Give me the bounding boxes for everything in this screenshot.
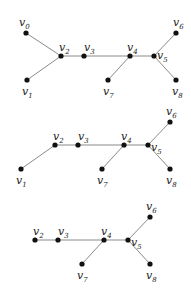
node-v2 (32, 237, 37, 242)
node-label-v8: v8 (146, 269, 157, 284)
node-label-v8: v8 (166, 174, 177, 189)
node-label-v5: v5 (151, 141, 162, 156)
node-v7 (99, 166, 104, 171)
node-label-v0: v0 (19, 16, 30, 31)
node-label-v2: v2 (59, 41, 70, 56)
node-v8 (147, 261, 152, 266)
node-v3 (81, 53, 86, 58)
tree-2: v1v2v3v4v5v6v7v8 (16, 105, 177, 189)
node-label-v4: v4 (127, 41, 138, 56)
node-v3 (55, 237, 60, 242)
node-label-v7: v7 (77, 269, 88, 284)
node-v1 (18, 166, 23, 171)
tree-diagrams: v0v1v2v3v4v5v6v7v8v1v2v3v4v5v6v7v8v2v3v4… (0, 0, 191, 296)
node-label-v5: v5 (157, 49, 168, 64)
node-label-v8: v8 (172, 85, 183, 100)
node-label-v3: v3 (58, 225, 69, 240)
node-v7 (79, 261, 84, 266)
node-v2 (58, 53, 63, 58)
edge-v1-v2 (21, 145, 55, 169)
node-label-v7: v7 (97, 174, 108, 189)
tree-3: v2v3v4v5v6v7v8 (32, 200, 157, 284)
node-v6 (173, 30, 178, 35)
node-v4 (121, 142, 126, 147)
node-label-v2: v2 (53, 130, 64, 145)
edge-v4-v7 (82, 240, 104, 264)
node-label-v4: v4 (121, 130, 132, 145)
node-v5 (145, 142, 150, 147)
node-v7 (105, 77, 110, 82)
node-v3 (75, 142, 80, 147)
node-label-v6: v6 (146, 200, 157, 215)
node-label-v3: v3 (78, 130, 89, 145)
node-label-v6: v6 (173, 16, 184, 31)
node-label-v1: v1 (22, 85, 33, 100)
node-v0 (23, 30, 28, 35)
edge-v4-v7 (102, 145, 124, 169)
node-label-v5: v5 (131, 236, 142, 251)
node-label-v1: v1 (16, 174, 27, 189)
node-v6 (167, 119, 172, 124)
tree-1: v0v1v2v3v4v5v6v7v8 (19, 16, 184, 100)
node-v1 (24, 77, 29, 82)
node-v4 (127, 53, 132, 58)
node-label-v7: v7 (103, 85, 114, 100)
node-v6 (147, 214, 152, 219)
node-label-v2: v2 (33, 225, 44, 240)
node-v8 (167, 166, 172, 171)
node-v4 (101, 237, 106, 242)
edge-v4-v7 (108, 56, 130, 80)
node-v8 (173, 77, 178, 82)
node-v5 (151, 53, 156, 58)
node-label-v3: v3 (84, 41, 95, 56)
edge-v1-v2 (27, 56, 61, 80)
node-v5 (125, 237, 130, 242)
edge-v0-v2 (26, 33, 61, 56)
node-label-v6: v6 (166, 105, 177, 120)
node-v2 (52, 142, 57, 147)
node-label-v4: v4 (101, 225, 112, 240)
